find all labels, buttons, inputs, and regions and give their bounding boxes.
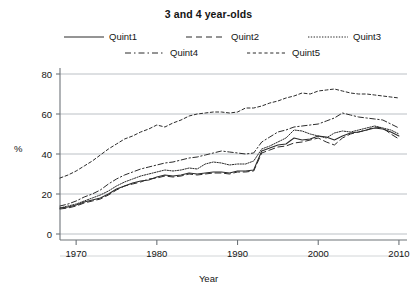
y-tick-label: 20 <box>41 189 52 200</box>
chart-figure: 3 and 4 year-olds Quint1 Quint2 Quint3 Q… <box>0 0 417 298</box>
y-tick-label: 0 <box>47 229 52 240</box>
series-line-quint3 <box>60 126 399 208</box>
x-tick-label: 2010 <box>388 248 409 259</box>
series-line-quint1 <box>60 128 399 208</box>
y-tick-label: 60 <box>41 109 52 120</box>
x-tick-label: 2000 <box>308 248 329 259</box>
x-tick-label: 1980 <box>146 248 167 259</box>
y-tick-label: 80 <box>41 69 52 80</box>
x-tick-label: 1990 <box>227 248 248 259</box>
series-line-quint2 <box>60 127 399 209</box>
y-tick-label: 40 <box>41 149 52 160</box>
chart-plot-area: 02040608019701980199020002010 <box>0 0 417 298</box>
x-tick-label: 1970 <box>66 248 87 259</box>
